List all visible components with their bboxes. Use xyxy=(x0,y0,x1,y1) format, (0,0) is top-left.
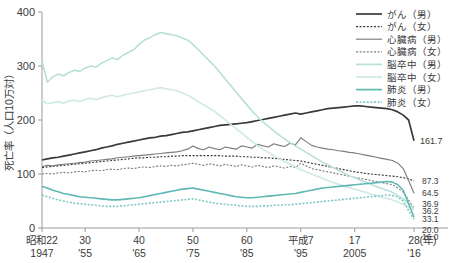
series-line-2 xyxy=(42,156,414,181)
x-tick-label-era: 60 xyxy=(241,234,253,246)
x-tick-label-era: 平成7 xyxy=(288,234,314,246)
y-tick-label: 0 xyxy=(29,222,35,234)
chart-svg: 0100200300400昭和22194730'5540'6550'7560'8… xyxy=(0,0,462,263)
x-tick-label-era: 17 xyxy=(349,234,361,246)
x-tick-label-western: '85 xyxy=(240,247,254,259)
series-end-value-label: 64.5 xyxy=(422,188,439,198)
x-tick-label-western: '65 xyxy=(132,247,146,259)
x-tick-label-era: 28 xyxy=(408,234,420,246)
legend-label-4: 心臓病（女） xyxy=(387,46,447,57)
x-tick-label-western: '55 xyxy=(78,247,92,259)
x-tick-label-era: 50 xyxy=(187,234,199,246)
x-tick-label-era: 30 xyxy=(79,234,91,246)
x-tick-label-western: 2005 xyxy=(343,247,367,259)
y-tick-label: 300 xyxy=(17,60,35,72)
legend-label-5: 脳卒中（男） xyxy=(387,59,447,70)
x-tick-label-western: '16 xyxy=(407,247,421,259)
y-axis-title: 死亡率（人口10万対） xyxy=(3,69,15,171)
x-tick-label-western: '95 xyxy=(294,247,308,259)
mortality-rate-chart: 0100200300400昭和22194730'5540'6550'7560'8… xyxy=(0,0,462,263)
x-tick-label-era: 昭和22 xyxy=(26,234,58,246)
legend-label-2: がん（女） xyxy=(387,21,437,32)
series-line-1 xyxy=(42,106,414,160)
legend-label-6: 脳卒中（女） xyxy=(387,72,447,83)
x-tick-label-western: '75 xyxy=(186,247,200,259)
y-tick-label: 200 xyxy=(17,114,35,126)
x-tick-label-western: 1947 xyxy=(30,247,54,259)
series-end-value-label: 161.7 xyxy=(420,136,443,146)
y-tick-label: 400 xyxy=(17,6,35,18)
legend-label-8: 肺炎（女） xyxy=(387,97,437,108)
series-end-value-label: 33.1 xyxy=(422,214,439,224)
series-line-5 xyxy=(42,33,414,209)
legend-label-7: 肺炎（男） xyxy=(387,84,437,95)
series-end-value-label: 16.0 xyxy=(422,232,439,242)
series-line-7 xyxy=(42,182,414,218)
x-tick-label-era: 40 xyxy=(133,234,145,246)
series-end-value-label: 87.3 xyxy=(422,176,439,186)
series-line-4 xyxy=(42,163,414,208)
legend-label-1: がん（男） xyxy=(387,9,437,20)
legend-label-3: 心臓病（男） xyxy=(387,34,447,45)
y-tick-label: 100 xyxy=(17,168,35,180)
